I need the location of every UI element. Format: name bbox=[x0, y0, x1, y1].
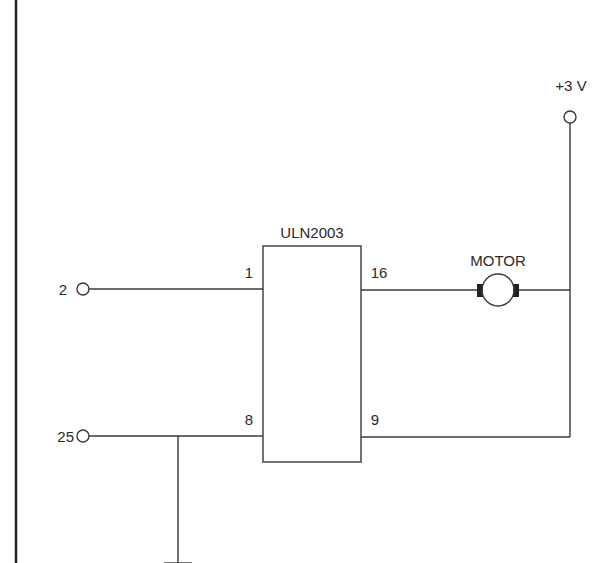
terminal-25-label: 25 bbox=[57, 428, 74, 445]
ic-uln2003-body bbox=[263, 246, 361, 462]
ic-label: ULN2003 bbox=[280, 224, 343, 241]
pin-8-label: 8 bbox=[245, 411, 253, 428]
terminal-2-connector-icon bbox=[77, 283, 89, 295]
terminal-2-label: 2 bbox=[59, 281, 67, 298]
motor-label: MOTOR bbox=[470, 252, 526, 269]
supply-label: +3 V bbox=[555, 77, 586, 94]
circuit-diagram: ULN2003 2 1 25 8 16 MOTOR 9 +3 V bbox=[0, 0, 611, 563]
supply-connector-icon bbox=[564, 111, 576, 123]
pin-16-label: 16 bbox=[371, 264, 388, 281]
pin-9-label: 9 bbox=[371, 411, 379, 428]
terminal-25-connector-icon bbox=[77, 430, 89, 442]
motor-icon bbox=[477, 274, 519, 306]
pin-1-label: 1 bbox=[245, 264, 253, 281]
